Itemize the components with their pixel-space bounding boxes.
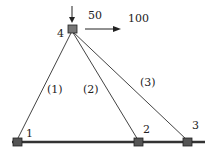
- load-100-label: 100: [128, 13, 149, 24]
- node-1-icon: [13, 138, 22, 146]
- member-2: [72, 31, 138, 140]
- load-down-arrowhead-icon: [69, 17, 75, 23]
- load-right-arrowhead-icon: [113, 26, 121, 32]
- node-2-icon: [134, 138, 143, 146]
- member-1: [17, 31, 72, 140]
- member-2-label: (2): [83, 84, 99, 95]
- member-3-label: (3): [140, 77, 156, 88]
- node-4-icon: [68, 25, 77, 33]
- node-3-icon: [183, 138, 192, 146]
- node-3-label: 3: [192, 120, 199, 131]
- truss-diagram: 50 100 4 1 2 3 (1) (2) (3): [0, 0, 216, 157]
- load-50-label: 50: [88, 10, 102, 21]
- node-1-label: 1: [26, 128, 33, 139]
- node-4-label: 4: [57, 28, 64, 39]
- node-2-label: 2: [143, 124, 150, 135]
- member-1-label: (1): [47, 84, 63, 95]
